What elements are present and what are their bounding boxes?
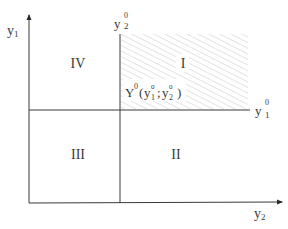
y1-zero-subscript: 1: [265, 110, 270, 120]
y1-axis-label: y1: [7, 23, 19, 39]
point-close-paren: ): [177, 85, 181, 100]
point-y1: y: [144, 85, 151, 100]
point-y2-sup: 0: [169, 83, 173, 91]
y2-zero-superscript: 0: [124, 11, 128, 20]
quadrant-i-label: I: [181, 56, 186, 71]
point-separator: ;: [157, 85, 161, 100]
point-y1-sub: 1: [151, 93, 155, 102]
quadrant-ii-label: II: [171, 147, 181, 162]
y2-axis-label: y2: [254, 206, 266, 222]
point-main-sup: 0: [134, 82, 138, 91]
y2-zero-label: y: [114, 16, 121, 31]
point-y2: y: [162, 85, 169, 100]
point-open-paren: (: [139, 85, 143, 100]
point-y2-sub: 2: [169, 93, 173, 102]
y2-zero-subscript: 2: [124, 21, 129, 31]
y1-zero-label: y: [255, 103, 262, 118]
quadrant-diagram: y1 y2 y 0 2 y 0 1 I II III IV Y 0 ( y 0 …: [0, 0, 288, 229]
y2-axis: [29, 202, 282, 203]
quadrant-iii-label: III: [71, 147, 85, 162]
point-y1-sup: 0: [151, 83, 155, 91]
y1-zero-superscript: 0: [265, 98, 269, 107]
quadrant-iv-label: IV: [71, 56, 86, 71]
